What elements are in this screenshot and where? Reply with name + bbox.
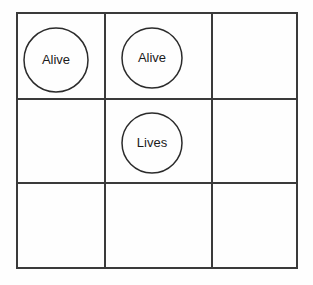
grid-cell-r2-c1[interactable] [105, 183, 212, 268]
circle-token-label-r0-c1: Alive [138, 50, 166, 65]
grid-cell-r2-c0[interactable] [17, 183, 105, 268]
grid-diagram: AliveAliveLives [0, 0, 313, 285]
diagram-canvas: AliveAliveLives [0, 0, 313, 285]
grid-cell-r0-c2[interactable] [212, 13, 297, 99]
grid-cell-r1-c0[interactable] [17, 99, 105, 183]
grid-cells: AliveAliveLives [17, 13, 297, 268]
grid-cell-r2-c2[interactable] [212, 183, 297, 268]
circle-token-label-r1-c1: Lives [137, 135, 168, 150]
grid-cell-r1-c2[interactable] [212, 99, 297, 183]
circle-token-label-r0-c0: Alive [42, 52, 70, 67]
